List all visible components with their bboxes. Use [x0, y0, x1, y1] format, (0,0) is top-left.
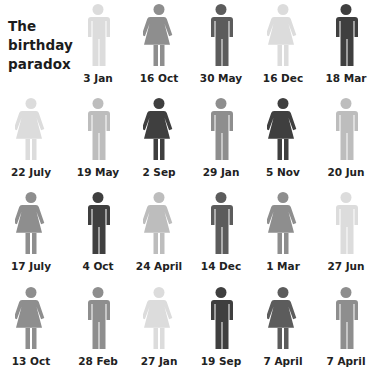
birthday-label: 27 Jan [128, 355, 190, 367]
female-figure [267, 287, 299, 355]
male-figure [333, 4, 359, 72]
female-figure-icon [15, 98, 47, 162]
female-figure [143, 98, 175, 166]
person-male: 4 Oct [67, 192, 129, 287]
person-male: 29 Jan [190, 98, 252, 193]
person-male: 14 Dec [190, 192, 252, 287]
title-line-3: paradox [8, 55, 73, 74]
male-figure-icon [85, 287, 111, 351]
female-figure [267, 4, 299, 72]
person-female: 1 Mar [252, 192, 314, 287]
birthday-label: 19 Sep [190, 355, 252, 367]
male-figure [208, 192, 234, 260]
male-figure-icon [333, 4, 359, 68]
birthday-label: 30 May [190, 72, 252, 84]
female-figure [15, 98, 47, 166]
male-figure-icon [85, 98, 111, 162]
birthday-label: 19 May [67, 166, 129, 178]
birthday-label: 24 April [128, 260, 190, 272]
birthday-label: 1 Mar [252, 260, 314, 272]
birthday-label: 16 Oct [128, 72, 190, 84]
person-male: 30 May [190, 4, 252, 99]
birthday-label: 28 Feb [67, 355, 129, 367]
male-figure [85, 287, 111, 355]
female-figure [15, 192, 47, 260]
person-female: 24 April [128, 192, 190, 287]
male-figure-icon [208, 98, 234, 162]
male-figure [85, 4, 111, 72]
title: The birthday paradox [8, 17, 73, 74]
person-female: 16 Dec [252, 4, 314, 99]
birthday-label: 14 Dec [190, 260, 252, 272]
person-female: 17 July [0, 192, 62, 287]
person-male: 28 Feb [67, 287, 129, 382]
person-male: 19 May [67, 98, 129, 193]
male-figure-icon [85, 4, 111, 68]
person-female: 22 July [0, 98, 62, 193]
birthday-label: 4 Oct [67, 260, 129, 272]
birthday-label: 2 Sep [128, 166, 190, 178]
female-figure-icon [267, 98, 299, 162]
female-figure-icon [143, 192, 175, 256]
birthday-label: 20 Jun [315, 166, 377, 178]
birthday-label: 29 Jan [190, 166, 252, 178]
male-figure [208, 4, 234, 72]
male-figure [208, 98, 234, 166]
female-figure [143, 4, 175, 72]
person-male: 19 Sep [190, 287, 252, 382]
person-male: 3 Jan [67, 4, 129, 99]
person-female: 5 Nov [252, 98, 314, 193]
birthday-label: 5 Nov [252, 166, 314, 178]
birthday-label: 13 Oct [0, 355, 62, 367]
person-female: 7 April [252, 287, 314, 382]
male-figure-icon [333, 192, 359, 256]
female-figure-icon [15, 287, 47, 351]
birthday-label: 7 April [315, 355, 377, 367]
infographic: The birthday paradox 3 Jan 16 Oct 30 May… [0, 0, 379, 385]
female-figure-icon [267, 192, 299, 256]
male-figure-icon [208, 192, 234, 256]
person-female: 27 Jan [128, 287, 190, 382]
person-male: 7 April [315, 287, 377, 382]
female-figure-icon [143, 4, 175, 68]
birthday-label: 27 Jun [315, 260, 377, 272]
person-male: 20 Jun [315, 98, 377, 193]
title-line-2: birthday [8, 36, 73, 55]
female-figure [267, 192, 299, 260]
person-male: 27 Jun [315, 192, 377, 287]
male-figure-icon [208, 4, 234, 68]
birthday-label: 7 April [252, 355, 314, 367]
male-figure-icon [208, 287, 234, 351]
male-figure [333, 192, 359, 260]
birthday-label: 22 July [0, 166, 62, 178]
birthday-label: 16 Dec [252, 72, 314, 84]
male-figure [85, 98, 111, 166]
person-female: 13 Oct [0, 287, 62, 382]
birthday-label: 3 Jan [67, 72, 129, 84]
person-female: 2 Sep [128, 98, 190, 193]
person-female: 16 Oct [128, 4, 190, 99]
person-male: 18 Mar [315, 4, 377, 99]
male-figure-icon [333, 98, 359, 162]
birthday-label: 17 July [0, 260, 62, 272]
male-figure [208, 287, 234, 355]
female-figure [267, 98, 299, 166]
female-figure-icon [267, 287, 299, 351]
female-figure [143, 192, 175, 260]
female-figure [15, 287, 47, 355]
female-figure [143, 287, 175, 355]
female-figure-icon [143, 98, 175, 162]
male-figure-icon [333, 287, 359, 351]
male-figure [85, 192, 111, 260]
title-line-1: The [8, 17, 73, 36]
male-figure [333, 287, 359, 355]
female-figure-icon [143, 287, 175, 351]
female-figure-icon [15, 192, 47, 256]
male-figure-icon [85, 192, 111, 256]
birthday-label: 18 Mar [315, 72, 377, 84]
male-figure [333, 98, 359, 166]
female-figure-icon [267, 4, 299, 68]
